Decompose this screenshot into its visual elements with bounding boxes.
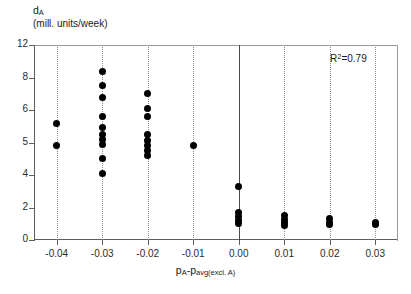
x-gridline <box>330 45 331 240</box>
scatter-point <box>99 82 106 89</box>
x-axis-title: pA-pavg(excl. A) <box>0 264 411 277</box>
y-axis-symbol: dA <box>33 4 107 18</box>
plot-area <box>34 45 398 240</box>
y-axis-tick <box>29 208 35 209</box>
y-axis-tick-label: 0 <box>22 233 28 244</box>
y-axis-tick <box>29 45 35 46</box>
y-axis-tick-label: 8 <box>22 71 28 82</box>
y-axis-tick <box>29 143 35 144</box>
scatter-point <box>99 113 106 120</box>
scatter-point <box>53 120 60 127</box>
y-axis-tick <box>29 240 35 241</box>
x-axis-tick-label: -0.04 <box>34 248 80 259</box>
scatter-point <box>99 141 106 148</box>
x-gridline <box>375 45 376 240</box>
y-axis-tick-label: 5 <box>22 136 28 147</box>
scatter-point <box>99 170 106 177</box>
scatter-point <box>99 94 106 101</box>
x-axis-tick-label: 0.03 <box>352 248 398 259</box>
x-axis-tick <box>375 240 376 245</box>
x-axis-tick <box>57 240 58 245</box>
r-squared-value: =0.79 <box>341 53 366 64</box>
x-axis-tick <box>284 240 285 245</box>
scatter-point <box>281 222 288 229</box>
x-axis-title-mid: -p <box>187 264 196 276</box>
scatter-point <box>99 155 106 162</box>
y-axis-tick-label: 12 <box>17 38 28 49</box>
x-axis-tick-label: 0.02 <box>307 248 353 259</box>
scatter-chart-figure: dA (mill. units/week) -0.04-0.03-0.02-0.… <box>0 0 411 294</box>
x-gridline <box>284 45 285 240</box>
plot-top-border <box>34 45 398 46</box>
scatter-point <box>190 142 197 149</box>
y-axis-title: dA (mill. units/week) <box>33 4 107 30</box>
scatter-point <box>372 221 379 228</box>
y-axis-units: (mill. units/week) <box>33 18 107 31</box>
y-axis-tick-label: 2 <box>22 201 28 212</box>
y-axis-tick <box>29 78 35 79</box>
x-axis-tick <box>330 240 331 245</box>
x-axis-title-tail-sub: avg(excl. A) <box>196 268 235 277</box>
r-squared-annotation: R2=0.79 <box>330 52 367 64</box>
y-axis-tick-label: 4 <box>22 168 28 179</box>
x-axis-tick-label: -0.02 <box>125 248 171 259</box>
plot-right-border <box>397 45 398 241</box>
y-axis-tick <box>29 110 35 111</box>
x-axis-tick <box>239 240 240 245</box>
x-axis-tick-label: -0.01 <box>170 248 216 259</box>
y-axis-tick-label: 6 <box>22 103 28 114</box>
x-axis-tick <box>193 240 194 245</box>
x-axis-tick-label: 0.01 <box>261 248 307 259</box>
x-axis-tick <box>102 240 103 245</box>
x-axis-tick <box>148 240 149 245</box>
x-axis-tick-label: 0.00 <box>216 248 262 259</box>
y-axis-symbol-subscript: A <box>39 8 44 17</box>
x-axis-tick-label: -0.03 <box>79 248 125 259</box>
y-axis-tick <box>29 175 35 176</box>
